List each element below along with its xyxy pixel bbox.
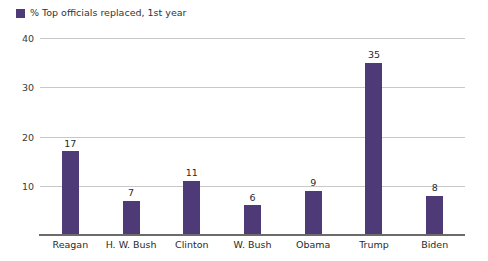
x-axis-category-label: Obama: [283, 239, 344, 250]
x-axis-labels-group: ReaganH. W. BushClintonW. BushObamaTrump…: [40, 239, 465, 250]
x-axis-category-label: Reagan: [40, 239, 101, 250]
bar-value-label: 17: [64, 139, 76, 149]
legend-series-label: % Top officials replaced, 1st year: [30, 8, 187, 18]
y-axis-tick-label: 10: [22, 180, 34, 191]
bar-column[interactable]: 35: [344, 63, 405, 235]
bar-rect[interactable]: [305, 191, 322, 235]
bar-group[interactable]: 9: [283, 38, 344, 235]
bar-rect[interactable]: [183, 181, 200, 235]
y-axis-tick-label: 20: [22, 131, 34, 142]
bar-column[interactable]: 7: [101, 201, 162, 235]
bar-rect[interactable]: [365, 63, 382, 235]
bar-column[interactable]: 9: [283, 191, 344, 235]
bar-group[interactable]: 7: [101, 38, 162, 235]
x-axis-category-label: H. W. Bush: [101, 239, 162, 250]
legend-color-swatch-icon: [16, 9, 25, 18]
x-axis-category-label: Clinton: [161, 239, 222, 250]
bar-column[interactable]: 17: [40, 151, 101, 235]
chart-figure: % Top officials replaced, 1st year 10203…: [0, 0, 488, 261]
y-axis-tick-label: 40: [22, 33, 34, 44]
y-axis-tick-label: 30: [22, 82, 34, 93]
x-axis-baseline: [39, 234, 465, 236]
x-axis-category-label: Trump: [344, 239, 405, 250]
bar-value-label: 7: [128, 188, 134, 198]
bar-column[interactable]: 6: [222, 205, 283, 235]
bar-group[interactable]: 6: [222, 38, 283, 235]
x-axis-category-label: W. Bush: [222, 239, 283, 250]
plot-area: 10203040 1771169358: [40, 38, 465, 235]
bar-group[interactable]: 17: [40, 38, 101, 235]
bar-value-label: 11: [186, 168, 198, 178]
x-axis-category-label: Biden: [404, 239, 465, 250]
bar-value-label: 6: [249, 193, 255, 203]
bar-value-label: 8: [432, 183, 438, 193]
bars-group: 1771169358: [40, 38, 465, 235]
bar-column[interactable]: 11: [161, 181, 222, 235]
bar-rect[interactable]: [123, 201, 140, 235]
bar-rect[interactable]: [426, 196, 443, 235]
bar-rect[interactable]: [62, 151, 79, 235]
bar-column[interactable]: 8: [404, 196, 465, 235]
bar-value-label: 9: [310, 178, 316, 188]
bar-rect[interactable]: [244, 205, 261, 235]
bar-value-label: 35: [368, 50, 380, 60]
bar-group[interactable]: 11: [161, 38, 222, 235]
chart-legend: % Top officials replaced, 1st year: [16, 6, 187, 20]
bar-group[interactable]: 35: [344, 38, 405, 235]
bar-group[interactable]: 8: [404, 38, 465, 235]
